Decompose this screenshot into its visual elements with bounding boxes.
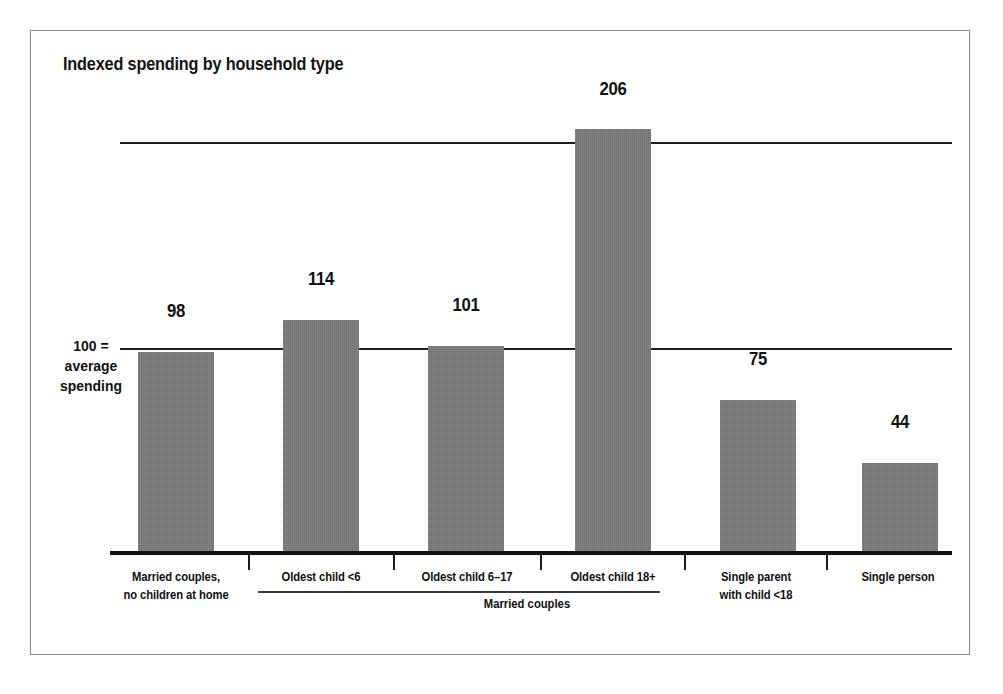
bar-single-parent bbox=[720, 400, 796, 553]
group-bracket-rule bbox=[258, 591, 660, 593]
y-axis-annotation-line2: average bbox=[52, 356, 129, 376]
group-bracket-label: Married couples bbox=[407, 597, 646, 611]
bar-value-label: 44 bbox=[867, 411, 934, 433]
y-axis-annotation-line1: 100 = bbox=[52, 336, 129, 356]
y-axis-annotation-line3: spending bbox=[52, 376, 129, 396]
bar-value-label: 98 bbox=[143, 300, 210, 322]
y-axis-annotation: 100 = average spending bbox=[52, 336, 129, 396]
axis-tick bbox=[540, 553, 542, 570]
category-label-line2: no children at home bbox=[113, 586, 239, 604]
axis-tick bbox=[826, 553, 828, 570]
category-label-line1: Married couples, bbox=[113, 568, 239, 586]
chart-figure: Indexed spending by household type 100 =… bbox=[0, 0, 1003, 694]
bar-value-label: 114 bbox=[288, 268, 355, 290]
category-label-oldest-child-under-6: Oldest child <6 bbox=[258, 568, 384, 586]
gridline-200 bbox=[120, 142, 952, 144]
category-label-line1: Single parent bbox=[695, 568, 817, 586]
category-label-line1: Oldest child 6–17 bbox=[403, 568, 531, 586]
bar-single-person bbox=[862, 463, 938, 553]
category-label-line1: Single person bbox=[837, 568, 959, 586]
bar-married-no-children bbox=[138, 352, 214, 553]
axis-tick bbox=[248, 553, 250, 570]
category-label-single-person: Single person bbox=[837, 568, 959, 586]
category-label-line1: Oldest child 18+ bbox=[550, 568, 676, 586]
bar-value-label: 206 bbox=[580, 78, 647, 100]
category-label-line1: Oldest child <6 bbox=[258, 568, 384, 586]
bar-oldest-child-18-plus bbox=[575, 129, 651, 553]
axis-tick bbox=[684, 553, 686, 570]
gridline-100 bbox=[120, 348, 952, 350]
plot-area: 100 = average spending 98 114 101 206 75… bbox=[0, 0, 1003, 694]
category-label-oldest-child-6-17: Oldest child 6–17 bbox=[403, 568, 531, 586]
bar-value-label: 75 bbox=[725, 348, 792, 370]
category-label-oldest-child-18-plus: Oldest child 18+ bbox=[550, 568, 676, 586]
axis-tick bbox=[393, 553, 395, 570]
category-label-single-parent: Single parent with child <18 bbox=[695, 568, 817, 604]
bar-value-label: 101 bbox=[433, 294, 500, 316]
bar-oldest-child-6-17 bbox=[428, 346, 504, 553]
category-label-line2: with child <18 bbox=[695, 586, 817, 604]
bar-oldest-child-under-6 bbox=[283, 320, 359, 553]
category-label-married-no-children: Married couples, no children at home bbox=[113, 568, 239, 604]
